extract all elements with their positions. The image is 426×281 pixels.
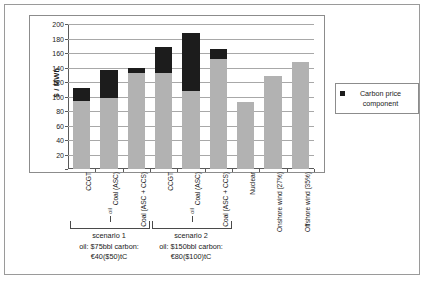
bar-slot [150, 24, 177, 169]
bar-slot [177, 24, 204, 169]
y-tick-label: 20 [40, 151, 64, 158]
bar-slot [259, 24, 286, 169]
y-tick-label: 180 [40, 35, 64, 42]
chart-legend: Carbon price component [335, 83, 419, 114]
x-axis-category-label: CCGT [85, 172, 92, 191]
scenario-annotations: oilscenario 1oil: $75bbl carbon:€40($50)… [29, 221, 325, 273]
caption-line: €80($100)tC [136, 252, 246, 263]
scenario-2-caption: scenario 2oil: $150bbl carbon:€80($100)t… [136, 231, 246, 263]
y-tick-label: 80 [40, 108, 64, 115]
bar-segment-base-cost [292, 62, 309, 169]
scenario-1-bracket: oil [70, 221, 150, 229]
y-tick-label: 40 [40, 137, 64, 144]
scenario-2-bracket: oil [152, 221, 232, 229]
bar-slot [123, 24, 150, 169]
legend-swatch-carbon-price [340, 91, 345, 96]
legend-entry: Carbon price component [340, 89, 414, 108]
bracket-marker: oil [189, 208, 195, 214]
caption-line: scenario 2 [136, 231, 246, 242]
bar-segment-base-cost [237, 102, 254, 169]
bracket-marker: oil [107, 208, 113, 214]
bar-segment-base-cost [100, 98, 117, 169]
bracket-tick [110, 216, 111, 222]
x-axis-category-label: CCGT [167, 172, 174, 191]
y-tick-label: 200 [40, 21, 64, 28]
bar-slot [232, 24, 259, 169]
bar-segment-carbon-price [155, 47, 172, 73]
bar-segment-carbon-price [182, 33, 199, 92]
x-axis-category-label: Coal (ASC) [194, 172, 201, 205]
bar-group [68, 24, 314, 169]
bar-segment-base-cost [182, 91, 199, 169]
bar-segment-base-cost [264, 76, 281, 169]
bar-segment-carbon-price [100, 70, 117, 98]
bar-segment-carbon-price [73, 88, 90, 101]
legend-label: Carbon price component [347, 89, 414, 108]
chart-frame: $ / MWh 20406080100120140160180200 CCGTC… [4, 4, 420, 275]
bar-segment-base-cost [210, 59, 227, 169]
y-tick-label: 120 [40, 79, 64, 86]
y-tick-mark [65, 169, 68, 170]
plot-axes: 20406080100120140160180200 [68, 24, 314, 169]
x-axis-category-label: Nuclear [249, 172, 256, 195]
x-axis-category-label: Coal (ASC + CCS) [222, 172, 229, 227]
bar-slot [205, 24, 232, 169]
bar-slot [287, 24, 314, 169]
bar-segment-carbon-price [128, 68, 145, 72]
y-tick-label: 100 [40, 93, 64, 100]
x-axis-category-label: Coal (ASC) [112, 172, 119, 205]
bar-segment-carbon-price [210, 49, 227, 58]
y-tick-label: 140 [40, 64, 64, 71]
bar-segment-base-cost [155, 73, 172, 169]
bar-slot [95, 24, 122, 169]
y-tick-label: 60 [40, 122, 64, 129]
x-tick-mark [314, 169, 315, 172]
y-tick-label: 160 [40, 50, 64, 57]
plot-panel: $ / MWh 20406080100120140160180200 CCGTC… [29, 15, 325, 173]
x-axis-category-label: Coal (ASC + CCS) [140, 172, 147, 227]
bar-slot [68, 24, 95, 169]
bar-segment-base-cost [128, 73, 145, 169]
caption-line: oil: $150bbl carbon: [136, 242, 246, 253]
bracket-tick [192, 216, 193, 222]
bar-segment-base-cost [73, 101, 90, 169]
